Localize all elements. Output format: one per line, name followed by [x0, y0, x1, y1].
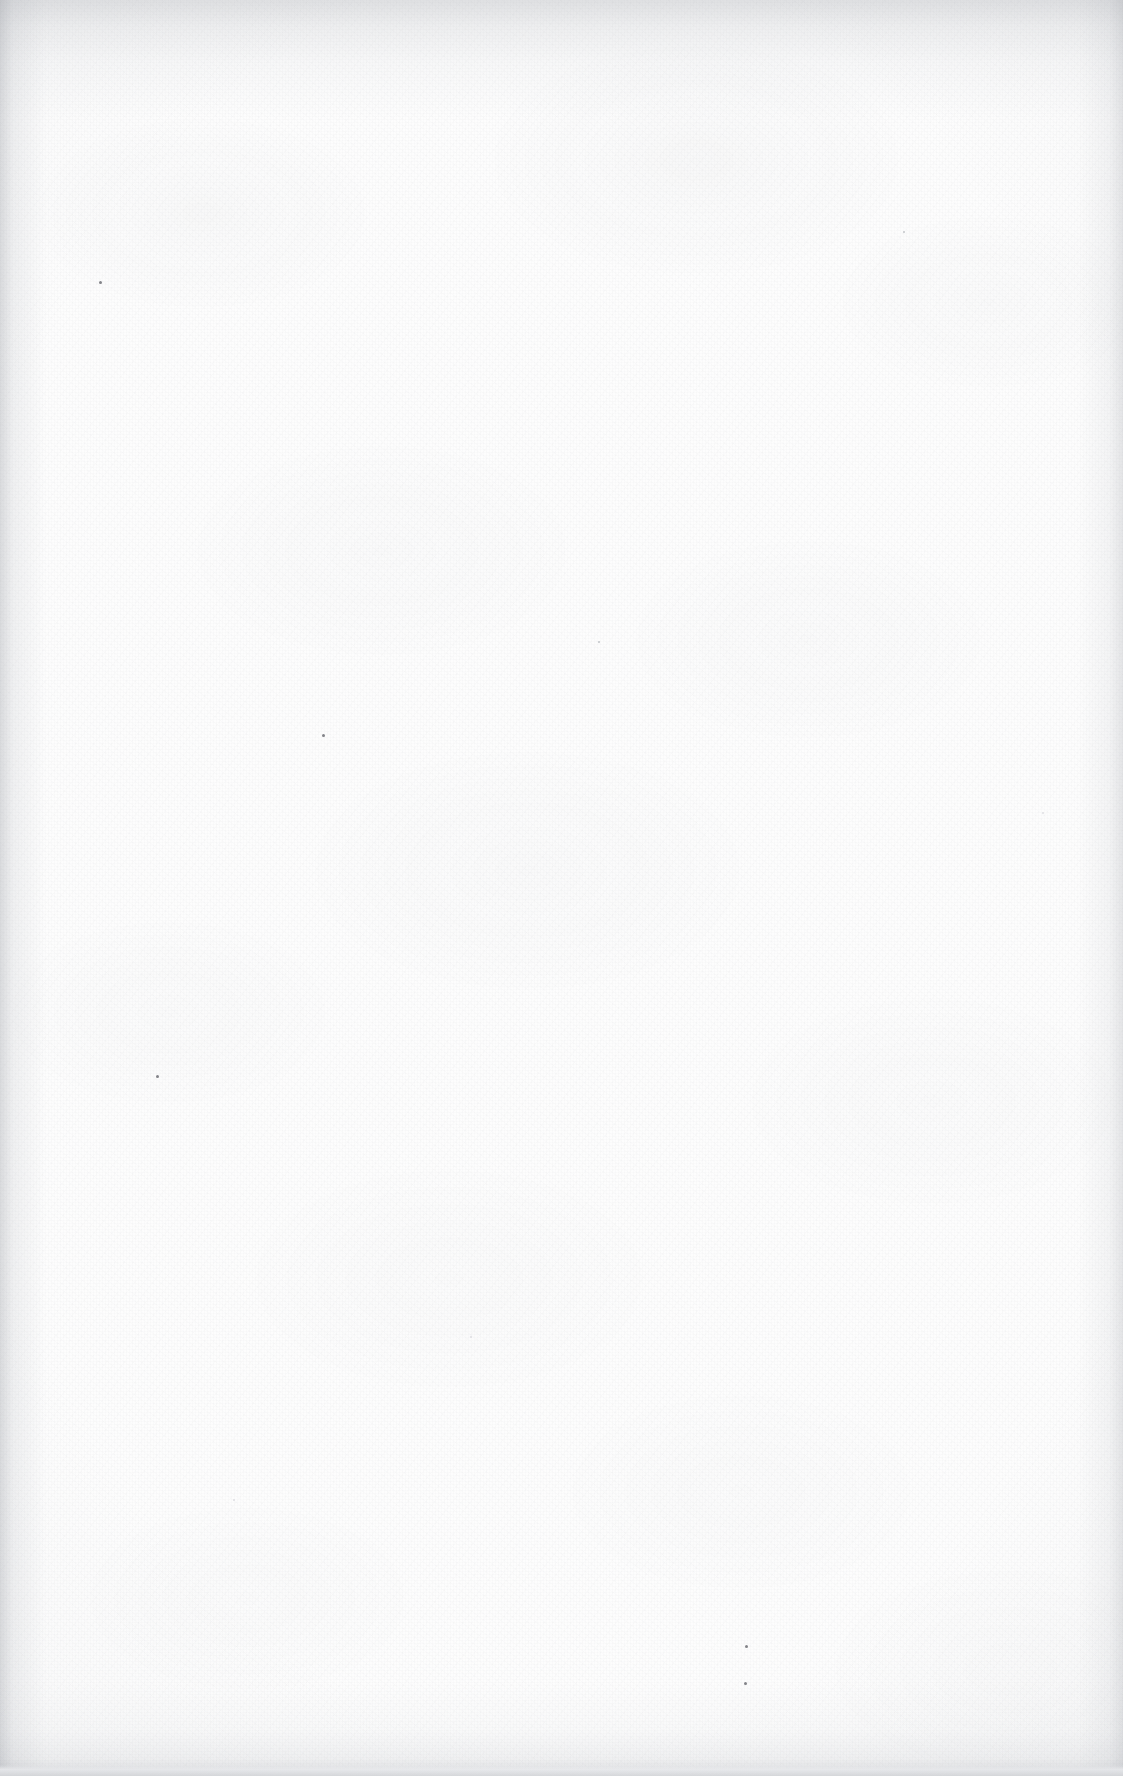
page-body-text	[0, 0, 1123, 1776]
page-content-area	[0, 0, 1123, 1776]
scanned-page	[0, 0, 1123, 1776]
